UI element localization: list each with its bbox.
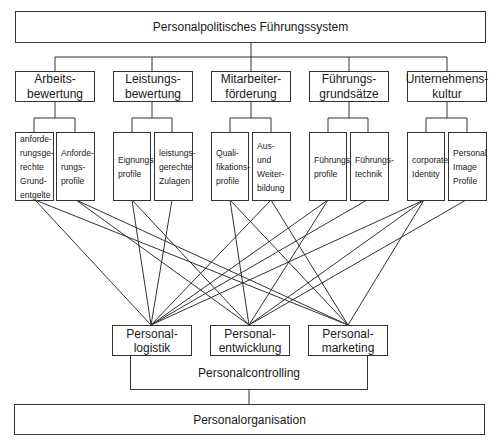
category-mitarbeiterfoerderung: Mitarbeiter- förderung [211, 71, 291, 102]
sub-eignungsprofile: Eignungs- profile [113, 132, 151, 201]
sub-qualifikationsprofile: Quali- fikations- profile [211, 132, 249, 201]
sub-leistungsgerechte-zulagen: leistungs- gerechte Zulagen [154, 132, 193, 201]
category-leistungsbewertung: Leistungs- bewertung [113, 71, 193, 102]
category-arbeitsbewertung: Arbeits- bewertung [15, 71, 95, 102]
sub-corporate-identity: corporate Identity [407, 132, 445, 201]
category-fuehrungsgrundsaetze: Führungs- grundsätze [309, 71, 389, 102]
personalpolitisches-fuehrungssystem-box: Personalpolitisches Führungssystem [15, 11, 486, 43]
function-personalmarketing: Personal- marketing [308, 325, 388, 356]
sub-fuehrungsprofile: Führungs- profile [309, 132, 347, 201]
personalorganisation-box: Personalorganisation [14, 404, 485, 435]
sub-personal-image-profile: Personal Image Profile [448, 132, 487, 201]
sub-aus-und-weiterbildung: Aus- und Weiter- bildung [252, 132, 291, 201]
system-title: Personalpolitisches Führungssystem [153, 20, 348, 34]
sub-grundentgelte: anforde- rungsge- rechte Grund- entgelte [15, 132, 54, 201]
category-unternehmenskultur: Unternehmens- kultur [407, 71, 487, 102]
function-personallogistik: Personal- logistik [112, 325, 192, 356]
sub-anforderungsprofile: Anforde- rungs- profile [56, 132, 95, 201]
function-personalentwicklung: Personal- entwicklung [210, 325, 290, 356]
sub-fuehrungstechnik: Führungs- technik [350, 132, 389, 201]
